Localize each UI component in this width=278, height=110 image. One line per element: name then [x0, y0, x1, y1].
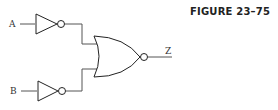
input-label-a: A [8, 19, 16, 29]
output-label-z: Z [165, 46, 171, 56]
nor-gate-icon [94, 36, 148, 77]
wire-a-to-nor [65, 24, 97, 44]
wire-b-to-nor [66, 69, 97, 91]
inverter-a-icon [36, 14, 65, 34]
figure-label: FIGURE 23–75 [190, 6, 270, 17]
inverter-b-icon [38, 81, 66, 101]
input-label-b: B [10, 86, 17, 96]
